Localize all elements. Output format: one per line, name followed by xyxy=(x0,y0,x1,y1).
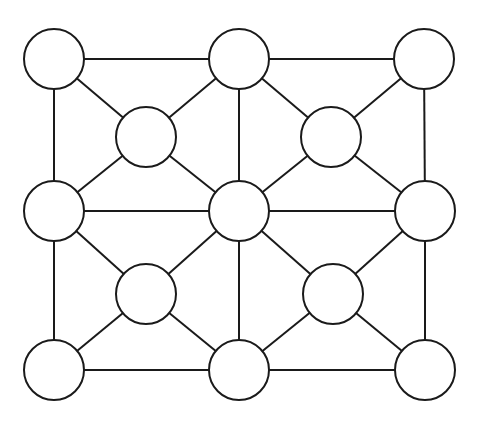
node-layer xyxy=(24,29,455,400)
node-n9 xyxy=(116,264,176,324)
node-n10 xyxy=(303,264,363,324)
node-n2 xyxy=(209,29,269,89)
node-n11 xyxy=(24,340,84,400)
node-n3 xyxy=(394,29,454,89)
graph-diagram xyxy=(0,0,481,422)
node-n6 xyxy=(24,181,84,241)
node-n8 xyxy=(395,181,455,241)
node-n4 xyxy=(116,107,176,167)
node-n7 xyxy=(209,181,269,241)
node-n12 xyxy=(209,340,269,400)
node-n13 xyxy=(395,340,455,400)
node-n5 xyxy=(301,107,361,167)
node-n1 xyxy=(24,29,84,89)
